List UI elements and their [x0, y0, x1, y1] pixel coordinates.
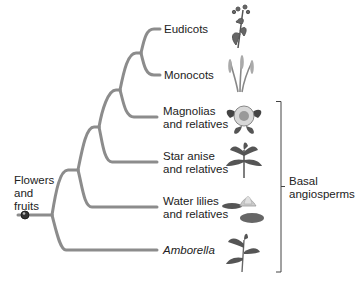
- root-label: Flowers and fruits: [14, 174, 54, 213]
- eudicot-plant-icon: [232, 5, 249, 48]
- branch-amborella: [52, 215, 157, 250]
- star-anise-plant-icon: [226, 143, 262, 178]
- branch-magnolias: [120, 90, 157, 117]
- amborella-plant-icon: [226, 234, 260, 272]
- branch-node-c: [78, 127, 99, 170]
- branch-node-e: [120, 53, 141, 90]
- branch-eudicots: [141, 29, 160, 53]
- magnolia-flower-icon: [227, 106, 262, 134]
- basal-angiosperms-bracket: [276, 102, 285, 273]
- branch-star-anise: [99, 127, 157, 162]
- branch-node-d: [99, 90, 120, 127]
- taxon-label-water-lilies: Water lilies and relatives: [163, 195, 228, 221]
- group-label-basal-angiosperms: Basal angiosperms: [289, 175, 355, 201]
- taxon-label-star-anise: Star anise and relatives: [163, 150, 228, 176]
- taxon-label-amborella: Amborella: [163, 244, 215, 257]
- monocot-grass-icon: [228, 55, 254, 92]
- taxon-label-monocots: Monocots: [164, 69, 214, 82]
- branch-water-lilies: [78, 170, 157, 207]
- taxon-label-eudicots: Eudicots: [164, 23, 208, 36]
- branch-monocots: [141, 53, 160, 75]
- branch-node-b: [52, 170, 78, 215]
- phylogenetic-tree: [0, 0, 356, 285]
- taxon-label-magnolias: Magnolias and relatives: [163, 105, 228, 131]
- water-lily-icon: [222, 197, 264, 224]
